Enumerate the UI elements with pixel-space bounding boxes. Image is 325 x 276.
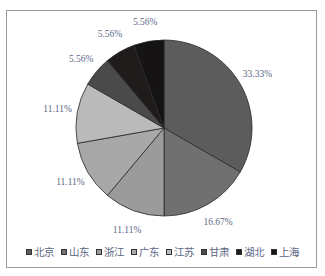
slice-data-label: 33.33% — [243, 69, 272, 79]
legend-swatch-icon — [96, 249, 102, 255]
pie-chart: 33.33%16.67%11.11%11.11%11.11%5.56%5.56%… — [0, 0, 325, 276]
legend-label: 广东 — [139, 244, 159, 259]
legend-swatch-icon — [271, 249, 277, 255]
legend-swatch-icon — [236, 249, 242, 255]
legend-item-gansu: 甘肃 — [201, 244, 229, 259]
legend-item-hubei: 湖北 — [236, 244, 264, 259]
legend-swatch-icon — [131, 249, 137, 255]
legend-label: 湖北 — [244, 244, 264, 259]
legend-label: 上海 — [279, 244, 299, 259]
slice-data-label: 5.56% — [98, 29, 123, 39]
slice-data-label: 11.11% — [43, 104, 72, 114]
legend-label: 江苏 — [174, 244, 194, 259]
legend-item-zhejiang: 浙江 — [96, 244, 124, 259]
legend-swatch-icon — [201, 249, 207, 255]
legend-swatch-icon — [26, 249, 32, 255]
legend-item-shanghai: 上海 — [271, 244, 299, 259]
legend-label: 山东 — [69, 244, 89, 259]
slice-data-label: 11.11% — [56, 177, 85, 187]
legend-label: 北京 — [34, 244, 54, 259]
legend-item-guangdong: 广东 — [131, 244, 159, 259]
slice-data-label: 5.56% — [69, 54, 94, 64]
legend-swatch-icon — [166, 249, 172, 255]
legend-label: 甘肃 — [209, 244, 229, 259]
legend-label: 浙江 — [104, 244, 124, 259]
slice-data-label: 5.56% — [133, 17, 158, 27]
legend-swatch-icon — [61, 249, 67, 255]
slice-data-label: 16.67% — [203, 217, 232, 227]
legend-item-jiangsu: 江苏 — [166, 244, 194, 259]
legend-item-beijing: 北京 — [26, 244, 54, 259]
slice-data-label: 11.11% — [113, 225, 142, 235]
chart-legend: 北京 山东 浙江 广东 江苏 甘肃 湖北 上海 — [0, 244, 325, 259]
legend-item-shandong: 山东 — [61, 244, 89, 259]
